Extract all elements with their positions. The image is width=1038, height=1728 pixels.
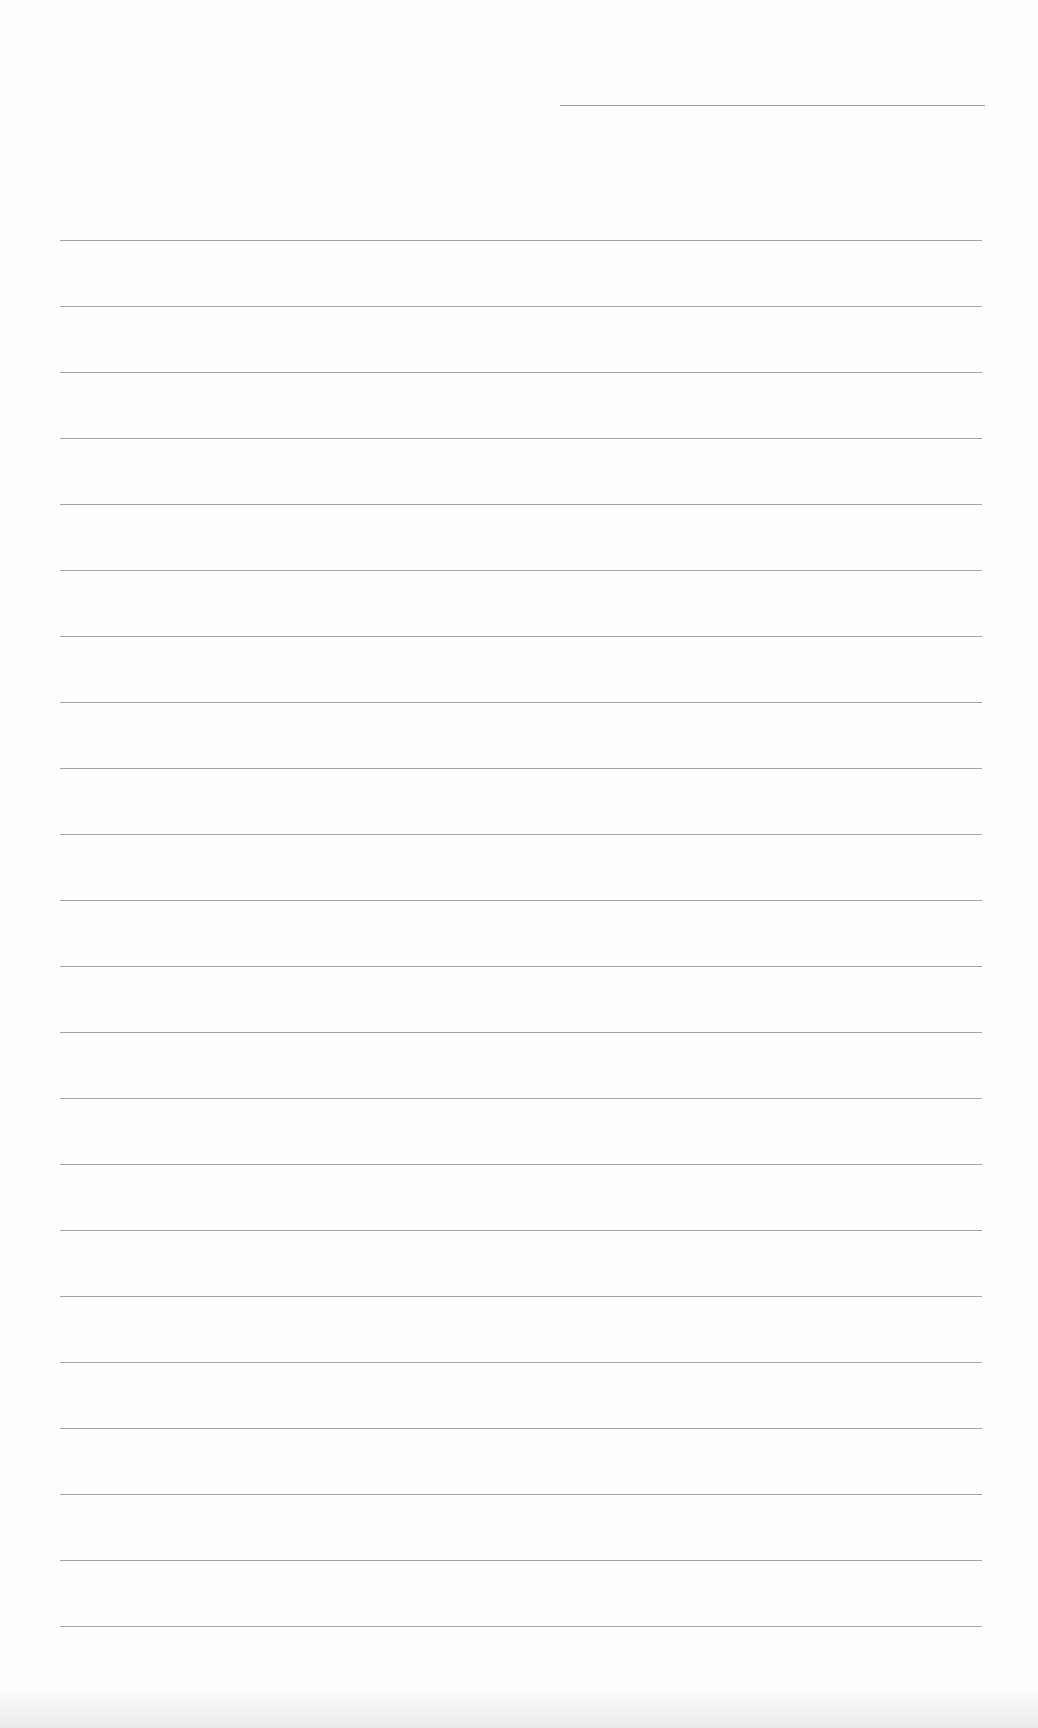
ruled-line [60, 570, 982, 571]
ruled-line [60, 834, 982, 835]
ruled-line [60, 702, 982, 703]
ruled-line [60, 636, 982, 637]
ruled-line [60, 1164, 982, 1165]
ruled-line [60, 1494, 982, 1495]
ruled-line [60, 438, 982, 439]
ruled-line [60, 1098, 982, 1099]
lined-paper-page [0, 0, 1038, 1728]
ruled-line [60, 1428, 982, 1429]
ruled-line [60, 1296, 982, 1297]
ruled-line [60, 1032, 982, 1033]
ruled-line [60, 240, 982, 241]
ruled-line [60, 1362, 982, 1363]
ruled-line [60, 900, 982, 901]
ruled-line [60, 1560, 982, 1561]
ruled-line [60, 306, 982, 307]
ruled-line [60, 504, 982, 505]
page-bottom-shadow [0, 1688, 1038, 1728]
ruled-line [60, 768, 982, 769]
ruled-line [60, 372, 982, 373]
ruled-line [60, 966, 982, 967]
header-rule [560, 105, 985, 106]
ruled-line [60, 1626, 982, 1627]
ruled-line [60, 1230, 982, 1231]
